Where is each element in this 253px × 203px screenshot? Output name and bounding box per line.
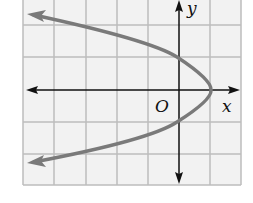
y-axis-label: y [187, 0, 197, 17]
parabola-graph [0, 0, 253, 203]
x-axis-label: x [222, 98, 232, 115]
origin-label: O [155, 98, 169, 115]
